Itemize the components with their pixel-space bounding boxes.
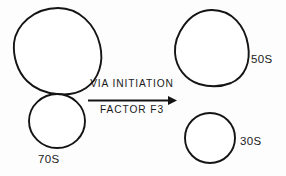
label-50s: 50S <box>251 54 273 66</box>
label-30s: 30S <box>240 136 262 148</box>
label-70s: 70S <box>38 154 60 166</box>
ribosome-50s-group <box>175 10 249 163</box>
reaction-condition-above-arrow: VIA INITIATION <box>88 79 176 89</box>
small-subunit-shape-right <box>185 113 235 163</box>
reaction-diagram: 70S 50S 30S VIA INITIATION FACTOR F3 <box>0 0 286 176</box>
ribosome-70s-group <box>14 8 101 148</box>
small-subunit-shape-left <box>29 94 85 148</box>
large-subunit-shape-right <box>175 10 249 86</box>
reaction-condition-below-arrow: FACTOR F3 <box>88 105 176 115</box>
